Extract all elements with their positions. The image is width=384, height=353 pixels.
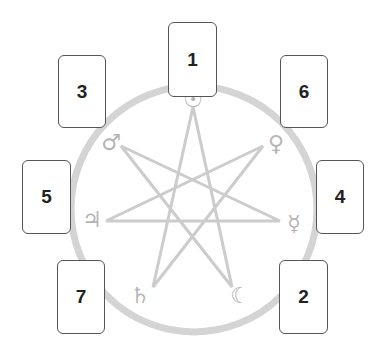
mercury-icon: ☿ <box>287 213 301 235</box>
card-2: 2 <box>279 260 328 334</box>
card-4: 4 <box>316 160 364 234</box>
card-number: 5 <box>41 186 52 208</box>
card-number: 6 <box>299 81 310 103</box>
moon-icon: ☾ <box>230 285 250 307</box>
card-7: 7 <box>57 260 105 334</box>
card-number: 1 <box>187 49 198 71</box>
saturn-icon: ♄ <box>130 285 150 307</box>
card-3: 3 <box>58 55 106 128</box>
card-number: 4 <box>335 186 346 208</box>
card-5: 5 <box>22 160 71 234</box>
card-number: 2 <box>298 286 309 308</box>
card-6: 6 <box>280 55 328 128</box>
card-number: 7 <box>76 286 87 308</box>
card-1: 1 <box>168 22 217 97</box>
venus-icon: ♀ <box>268 133 284 155</box>
jupiter-icon: ♃ <box>82 209 102 231</box>
card-number: 3 <box>77 81 88 103</box>
mars-icon: ♂ <box>101 132 121 154</box>
heptagram-star <box>106 107 280 287</box>
